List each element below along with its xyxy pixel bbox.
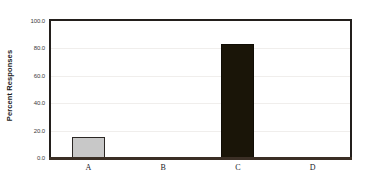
axis-baseline <box>49 157 352 160</box>
y-axis-title: Percent Responses <box>0 0 20 170</box>
y-axis-tick-label: 80.0 <box>34 45 45 51</box>
x-axis-tick-label: D <box>310 163 316 172</box>
y-axis-tick-labels: 100.080.060.040.020.00.0 <box>20 19 47 160</box>
bar-chart: Percent Responses 100.080.060.040.020.00… <box>0 0 366 191</box>
plot-inner <box>51 21 350 158</box>
y-axis-tick-label: 20.0 <box>34 128 45 134</box>
bars-layer <box>51 21 350 158</box>
x-axis-tick-label: C <box>235 163 240 172</box>
y-axis-tick-label: 0.0 <box>37 155 45 161</box>
bar-a <box>72 137 105 158</box>
y-axis-tick-label: 40.0 <box>34 100 45 106</box>
plot-area <box>49 19 352 160</box>
x-axis-tick-label: B <box>160 163 165 172</box>
x-axis-tick-label: A <box>85 163 91 172</box>
y-axis-title-text: Percent Responses <box>6 49 15 120</box>
y-axis-tick-label: 100.0 <box>30 18 45 24</box>
bar-c <box>221 44 254 158</box>
x-axis-tick-labels: ABCD <box>49 163 352 181</box>
y-axis-tick-label: 60.0 <box>34 73 45 79</box>
